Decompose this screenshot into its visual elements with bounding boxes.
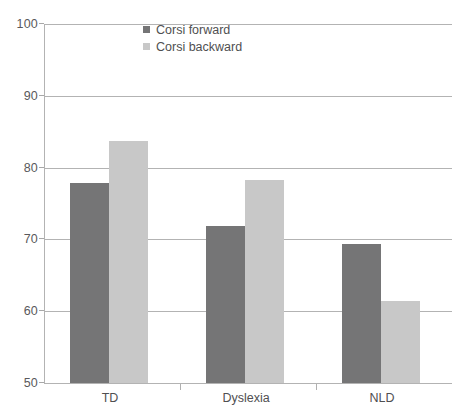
bar-nld-corsi-forward [342, 244, 381, 383]
y-tick-mark [39, 382, 44, 383]
y-tick-label: 90 [24, 89, 38, 103]
x-label-nld: NLD [369, 391, 394, 405]
x-label-td: TD [102, 391, 119, 405]
plot-area [44, 24, 452, 383]
y-tick-label: 100 [17, 17, 38, 31]
y-tick-mark [39, 310, 44, 311]
category-separator [180, 384, 181, 390]
y-tick-mark [39, 95, 44, 96]
y-tick-label: 60 [24, 304, 38, 318]
y-tick-mark [39, 167, 44, 168]
legend-swatch-icon [143, 26, 150, 33]
x-label-dyslexia: Dyslexia [222, 391, 269, 405]
bar-chart: 100 90 80 70 60 50 TD Dyslexia NLD Corsi… [0, 0, 461, 418]
gridline-80 [44, 168, 452, 169]
legend-swatch-icon [143, 43, 150, 50]
gridline-100 [44, 24, 452, 25]
y-tick-label: 50 [24, 376, 38, 390]
x-axis-line [44, 383, 452, 384]
y-tick-mark [39, 238, 44, 239]
legend-label: Corsi backward [156, 40, 242, 54]
bar-td-corsi-backward [109, 141, 148, 383]
legend-label: Corsi forward [156, 23, 230, 37]
y-tick-label: 80 [24, 161, 38, 175]
bar-dyslexia-corsi-forward [206, 226, 245, 383]
gridline-90 [44, 96, 452, 97]
legend-item-corsi-backward: Corsi backward [143, 38, 242, 55]
y-tick-mark [39, 23, 44, 24]
bar-nld-corsi-backward [381, 301, 420, 383]
legend-item-corsi-forward: Corsi forward [143, 21, 242, 38]
bar-td-corsi-forward [70, 183, 109, 383]
y-axis-line [44, 24, 45, 383]
bar-dyslexia-corsi-backward [245, 180, 284, 383]
y-tick-label: 70 [24, 232, 38, 246]
legend: Corsi forward Corsi backward [143, 21, 242, 55]
category-separator [316, 384, 317, 390]
